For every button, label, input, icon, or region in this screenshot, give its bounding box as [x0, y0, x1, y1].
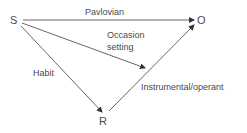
label-setting: setting: [107, 42, 134, 52]
label-pavlovian: Pavlovian: [85, 7, 124, 17]
association-diagram: S O R Pavlovian Occasion setting Habit I…: [0, 0, 247, 133]
diagram-arrows: [0, 0, 247, 133]
label-occasion: Occasion: [107, 30, 145, 40]
node-r: R: [99, 115, 107, 127]
label-instrumental: Instrumental/operant: [141, 82, 224, 92]
node-s: S: [10, 14, 17, 26]
label-habit: Habit: [33, 68, 54, 78]
node-o: O: [197, 14, 206, 26]
